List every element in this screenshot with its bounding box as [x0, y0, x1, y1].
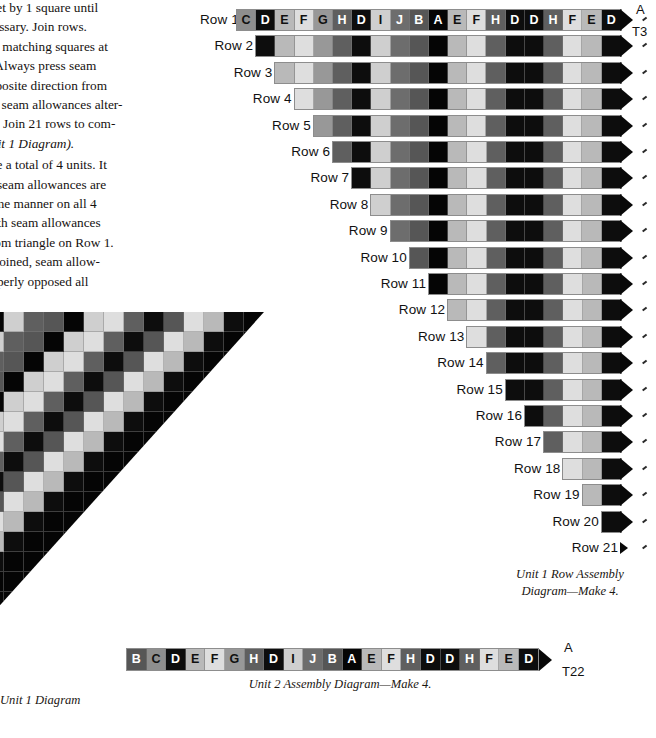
fabric-square-D: [525, 248, 544, 268]
fabric-square-D: [506, 327, 525, 347]
block-cell-A: [0, 672, 4, 692]
fabric-square-E: E: [499, 649, 519, 670]
block-cell-A: [184, 532, 204, 552]
block-cell-D: [44, 412, 64, 432]
block-cell-A: [164, 472, 184, 492]
block-cell-A: [104, 612, 124, 632]
block-cell-F: [24, 472, 44, 492]
row-3: Row 3: [200, 61, 640, 85]
fabric-square-H: [544, 221, 563, 241]
block-cell-A: [184, 492, 204, 512]
unit-1-row-assembly-diagram: Row 1CDEFGHDIJBAEFHDDHFEDRow 2Row 3Row 4…: [200, 8, 656, 568]
block-cell-B: [144, 332, 164, 352]
block-cell-D: [24, 432, 44, 452]
row-4: Row 4: [200, 87, 640, 111]
fabric-square-G: G: [314, 10, 333, 30]
fabric-square-D: D: [166, 649, 186, 670]
row-arrow-head-17: [620, 431, 633, 453]
fabric-square-B: [410, 142, 429, 162]
block-cell-A: [164, 512, 184, 532]
block-cell-A: [124, 592, 144, 612]
fabric-square-D: [506, 353, 525, 373]
fabric-square-D: [602, 327, 621, 347]
block-cell-A: [4, 652, 24, 672]
block-cell-A: [124, 612, 144, 632]
row-arrow-head-15: [620, 379, 633, 401]
row-arrow-head-12: [620, 299, 633, 321]
fabric-square-B: [410, 248, 429, 268]
block-cell-A: [144, 672, 164, 692]
fabric-square-D: D: [519, 649, 539, 670]
block-cell-D: [204, 332, 224, 352]
block-cell-A: [244, 512, 264, 532]
block-cell-A: [0, 632, 4, 652]
block-cell-A: [244, 552, 264, 572]
block-cell-A: [224, 572, 244, 592]
fabric-square-D: [256, 36, 275, 56]
fabric-square-H: [544, 274, 563, 294]
italic-reference-unit-1-diagram: (Unit 1 Diagram).: [0, 136, 74, 151]
fabric-square-E: E: [448, 10, 467, 30]
block-cell-A: [164, 412, 184, 432]
fabric-square-A: A: [429, 10, 448, 30]
row-8: Row 8: [200, 193, 640, 217]
block-cell-A: [144, 412, 164, 432]
fabric-square-E: [275, 36, 294, 56]
fabric-square-J: [391, 63, 410, 83]
block-cell-A: [184, 692, 204, 712]
block-cell-A: [24, 532, 44, 552]
fabric-square-F: [467, 142, 486, 162]
block-cell-F: [124, 372, 144, 392]
block-cell-E: [144, 372, 164, 392]
fabric-square-E: [448, 168, 467, 188]
unit-2-assembly-diagram: BCDEFGHDIJBAEFHDDHFED: [126, 648, 552, 671]
block-cell-A: [244, 492, 264, 512]
row-15: Row 15: [200, 378, 640, 402]
fabric-square-H: [544, 300, 563, 320]
fabric-square-A: [429, 89, 448, 109]
block-cell-A: [244, 452, 264, 472]
fabric-square-H: [486, 116, 505, 136]
block-cell-H: [44, 392, 64, 412]
block-cell-A: [224, 692, 244, 712]
body-line: to make a total of 4 units. It: [0, 157, 107, 172]
callout-label-t22: T22: [562, 664, 584, 679]
block-cell-A: [204, 512, 224, 532]
row-strip-5: [313, 115, 622, 137]
block-cell-A: [64, 512, 84, 532]
fabric-square-D: [602, 221, 621, 241]
fabric-square-C: C: [237, 10, 256, 30]
block-cell-E: [124, 392, 144, 412]
fabric-square-D: [602, 142, 621, 162]
body-paragraph-2: to make a total of 4 units. Itnt that se…: [0, 155, 198, 291]
row-strip-18: [562, 458, 622, 480]
block-cell-F: [4, 412, 24, 432]
block-cell-A: [164, 692, 184, 712]
fabric-square-H: [544, 142, 563, 162]
fabric-square-D: [602, 512, 621, 532]
fabric-square-F: F: [563, 10, 582, 30]
fabric-square-F: [467, 221, 486, 241]
block-cell-A: [164, 672, 184, 692]
block-cell-F: [104, 392, 124, 412]
fabric-square-F: F: [295, 10, 314, 30]
fabric-square-I: [371, 36, 390, 56]
fabric-square-D: [506, 142, 525, 162]
row-arrow-head-3: [620, 62, 633, 84]
block-cell-A: [244, 592, 264, 612]
fabric-square-E: [448, 36, 467, 56]
fabric-square-F: [295, 89, 314, 109]
fabric-square-D: D: [441, 649, 461, 670]
block-cell-A: [84, 612, 104, 632]
block-cell-A: [4, 372, 24, 392]
block-cell-E: [4, 512, 24, 532]
block-cell-A: [164, 492, 184, 512]
margin-tick-20: [642, 518, 648, 524]
fabric-square-E: E: [362, 649, 382, 670]
block-cell-D: [224, 312, 244, 332]
fabric-square-F: [467, 274, 486, 294]
block-cell-A: [0, 652, 4, 672]
fabric-square-H: [487, 300, 506, 320]
block-cell-A: [24, 632, 44, 652]
block-cell-F: [84, 412, 104, 432]
